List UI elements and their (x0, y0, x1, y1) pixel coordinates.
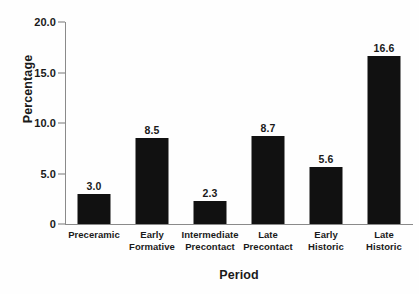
bar-value-label: 8.5 (145, 124, 160, 136)
y-axis-tick-label: 20.0 (16, 16, 56, 28)
y-axis-tick-mark (58, 72, 65, 73)
plot-area: 3.08.52.38.75.616.6 (65, 22, 413, 224)
bar-value-label: 5.6 (319, 153, 334, 165)
x-axis-category-label-line: Intermediate (181, 229, 239, 241)
y-axis-tick-mark (58, 173, 65, 174)
x-axis-category-label-line: Early (297, 229, 355, 241)
x-axis-category-label-line: Historic (297, 241, 355, 253)
x-axis-category-label-line: Preceramic (65, 229, 123, 241)
y-axis-tick-label: 15.0 (16, 67, 56, 79)
y-axis-tick-mark (58, 224, 65, 225)
x-axis-category-label: EarlyHistoric (297, 229, 355, 252)
bar-group: 16.6 (355, 22, 413, 224)
x-axis-category-label: IntermediatePrecontact (181, 229, 239, 252)
bar-group: 3.0 (65, 22, 123, 224)
bar (78, 194, 111, 224)
x-axis-category-label-line: Formative (123, 241, 181, 253)
bar-value-label: 3.0 (87, 180, 102, 192)
y-axis-tick-label: 5.0 (16, 168, 56, 180)
bar-group: 5.6 (297, 22, 355, 224)
bar-value-label: 2.3 (203, 187, 218, 199)
x-axis-category-label-line: Precontact (181, 241, 239, 253)
x-axis-category-labels: PreceramicEarlyFormativeIntermediatePrec… (65, 229, 413, 263)
x-axis-category-label: LateHistoric (355, 229, 413, 252)
bar (368, 56, 401, 224)
bar (194, 201, 227, 224)
bar (252, 136, 285, 224)
x-axis-category-label: Preceramic (65, 229, 123, 241)
x-axis-category-label-line: Historic (355, 241, 413, 253)
bar-chart-figure: Percentage 05.010.015.020.0 3.08.52.38.7… (0, 0, 419, 294)
bar (136, 138, 169, 224)
bar-group: 8.7 (239, 22, 297, 224)
y-axis-tick-mark (58, 123, 65, 124)
y-axis-tick-label: 10.0 (16, 117, 56, 129)
bar (310, 167, 343, 224)
x-axis-category-label: LatePrecontact (239, 229, 297, 252)
bar-value-label: 8.7 (261, 122, 276, 134)
x-axis-category-label: EarlyFormative (123, 229, 181, 252)
x-axis-category-label-line: Late (355, 229, 413, 241)
y-axis-tick-mark (58, 22, 65, 23)
x-axis-category-label-line: Late (239, 229, 297, 241)
bar-group: 2.3 (181, 22, 239, 224)
bar-group: 8.5 (123, 22, 181, 224)
y-axis-tick-labels: 05.010.015.020.0 (8, 0, 56, 294)
x-axis-line (65, 224, 413, 225)
bar-value-label: 16.6 (374, 42, 395, 54)
y-axis-tick-label: 0 (16, 218, 56, 230)
x-axis-category-label-line: Early (123, 229, 181, 241)
x-axis-title: Period (65, 268, 413, 282)
x-axis-category-label-line: Precontact (239, 241, 297, 253)
